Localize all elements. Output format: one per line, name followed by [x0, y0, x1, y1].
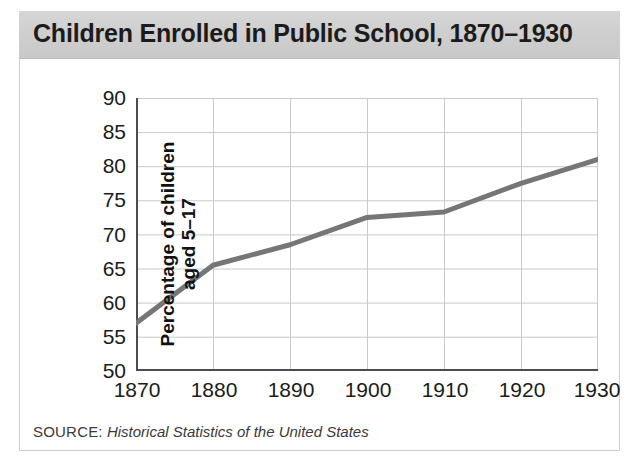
source-text: Historical Statistics of the United Stat… — [107, 423, 369, 440]
y-tick-label: 85 — [82, 120, 126, 144]
y-axis-title-line1: Percentage of children — [157, 142, 178, 347]
y-tick-label: 80 — [82, 154, 126, 178]
y-tick-label: 70 — [82, 223, 126, 247]
y-axis-title-line2: aged 5–17 — [178, 198, 199, 290]
x-tick-label: 1870 — [95, 378, 179, 402]
source-note: SOURCE: Historical Statistics of the Uni… — [33, 423, 369, 440]
y-tick-label: 60 — [82, 291, 126, 315]
x-tick-label: 1930 — [555, 378, 635, 402]
plot-area: Percentage of children aged 5–17 — [136, 98, 598, 371]
x-tick-label: 1900 — [326, 378, 410, 402]
x-tick-label: 1920 — [480, 378, 564, 402]
x-tick-label: 1910 — [403, 378, 487, 402]
y-tick-label: 65 — [82, 257, 126, 281]
x-axis-tick-labels: 1870 1880 1890 1900 1910 1920 1930 — [136, 378, 598, 408]
chart-title: Children Enrolled in Public School, 1870… — [33, 19, 608, 48]
y-axis-tick-labels: 90 85 80 75 70 65 60 55 50 — [82, 98, 126, 371]
y-tick-label: 90 — [82, 86, 126, 110]
y-tick-label: 55 — [82, 325, 126, 349]
chart-figure: Children Enrolled in Public School, 1870… — [0, 0, 635, 463]
y-tick-label: 75 — [82, 188, 126, 212]
y-axis-title: Percentage of children aged 5–17 — [150, 126, 206, 362]
source-label: SOURCE: — [33, 423, 103, 440]
x-tick-label: 1880 — [172, 378, 256, 402]
x-tick-label: 1890 — [249, 378, 333, 402]
